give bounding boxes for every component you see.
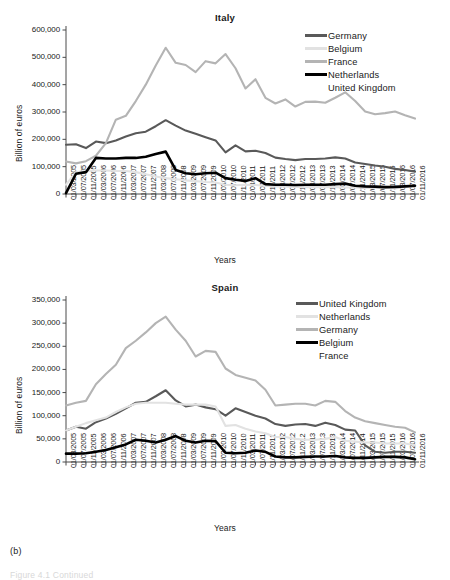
legend-label: Belgium bbox=[327, 44, 362, 54]
series-line-belgium bbox=[66, 436, 415, 459]
legend-swatch-icon bbox=[296, 323, 318, 336]
series-line-germany bbox=[66, 120, 415, 171]
figure-caption-continued: Figure 4.1 Continued bbox=[10, 570, 93, 580]
legend-item: France bbox=[305, 55, 396, 68]
legend-label: Netherlands bbox=[318, 312, 370, 322]
legend-swatch-icon bbox=[305, 55, 327, 68]
legend-label: Belgium bbox=[318, 338, 353, 348]
legend-swatch-icon bbox=[296, 349, 318, 362]
legend-swatch-icon bbox=[305, 68, 327, 81]
legend-label: Germany bbox=[327, 31, 367, 41]
legend-item: United Kingdom bbox=[296, 297, 387, 310]
chart-panel-italy: Italy Billion of euros Years 0100,000200… bbox=[0, 12, 450, 282]
legend-item: Netherlands bbox=[296, 310, 387, 323]
legend-item: Netherlands bbox=[305, 68, 396, 81]
legend-spain: United KingdomNetherlandsGermanyBelgiumF… bbox=[296, 297, 387, 362]
legend-italy: GermanyBelgiumFranceNetherlandsUnited Ki… bbox=[305, 29, 396, 94]
legend-label: France bbox=[327, 57, 358, 67]
legend-swatch-icon bbox=[305, 29, 327, 42]
legend-label: Netherlands bbox=[327, 70, 379, 80]
legend-item: Belgium bbox=[305, 42, 396, 55]
series-line-netherlands bbox=[66, 152, 415, 194]
legend-item: Belgium bbox=[296, 336, 387, 349]
legend-swatch-icon bbox=[305, 42, 327, 55]
legend-swatch-icon bbox=[296, 310, 318, 323]
legend-label: France bbox=[318, 351, 349, 361]
figure-container: Italy Billion of euros Years 0100,000200… bbox=[0, 0, 450, 580]
legend-label: United Kingdom bbox=[327, 83, 396, 93]
legend-item: United Kingdom bbox=[305, 81, 396, 94]
legend-swatch-icon bbox=[296, 297, 318, 310]
legend-item: Germany bbox=[296, 323, 387, 336]
legend-item: Germany bbox=[305, 29, 396, 42]
legend-label: Germany bbox=[318, 325, 358, 335]
figure-caption: (b) bbox=[10, 546, 22, 556]
legend-swatch-icon bbox=[305, 81, 327, 94]
legend-label: United Kingdom bbox=[318, 299, 387, 309]
legend-item: France bbox=[296, 349, 387, 362]
chart-panel-spain: Spain Billion of euros Years 050,000100,… bbox=[0, 282, 450, 550]
legend-swatch-icon bbox=[296, 336, 318, 349]
